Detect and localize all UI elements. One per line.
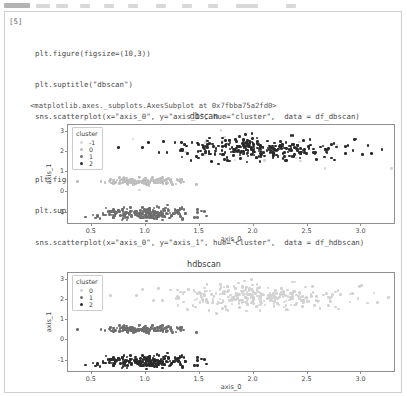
toolbar-icon-paste[interactable] [80,4,90,8]
scatter-point [171,183,174,186]
y-axis-tick-mark [65,339,67,340]
scatter-point [153,360,156,363]
scatter-point [273,305,276,308]
legend-item[interactable]: 2 [76,301,98,308]
scatter-point [215,312,218,315]
scatter-point [294,304,297,307]
scatter-point [196,356,199,359]
scatter-point [110,210,113,213]
scatter-point [139,217,142,220]
x-axis-tick-label: 2.5 [293,375,321,383]
legend-item[interactable]: 0 [76,146,98,153]
toolbar-cell-type-select[interactable] [236,4,258,8]
legend-item[interactable]: 1 [76,294,98,301]
y-axis-tick-mark [65,212,67,213]
scatter-point [237,149,240,152]
scatter-point [142,327,145,330]
scatter-point [266,140,269,143]
scatter-point [291,143,294,146]
legend-item[interactable]: 2 [76,160,98,167]
scatter-point [141,146,144,149]
scatter-point [100,180,103,183]
y-axis-tick-mark [65,360,67,361]
chart-legend[interactable]: cluster012 [72,275,103,311]
scatter-point [196,208,199,211]
scatter-point [279,295,282,298]
scatter-point [131,178,134,181]
scatter-point [295,157,298,160]
x-axis-tick-mark [145,224,146,226]
x-axis-tick-label: 1.5 [185,375,213,383]
x-axis-tick-label: 2.0 [239,375,267,383]
scatter-point [121,182,124,185]
scatter-point [285,308,288,311]
scatter-point [145,368,148,371]
scatter-point [127,331,130,334]
notebook-cell[interactable]: [5] plt.figure(figsize=(10,3)) plt.supti… [4,11,402,393]
x-axis-tick-mark [360,372,361,374]
legend-item[interactable]: -1 [76,139,98,146]
scatter-point [344,145,347,148]
scatter-point [138,324,141,327]
scatter-point [152,299,155,302]
scatter-point [158,206,161,209]
scatter-point [161,219,164,222]
scatter-point [186,308,189,311]
y-axis-tick-label: 3 [51,127,64,135]
legend-title: cluster [76,130,98,138]
scatter-point [357,297,360,300]
toolbar-icon-move-down[interactable] [128,4,138,8]
scatter-point [196,292,199,295]
toolbar-icon-move-up[interactable] [104,4,114,8]
scatter-point [221,141,224,144]
chart-legend[interactable]: cluster-1012 [72,127,103,170]
scatter-point [261,293,264,296]
scatter-point [272,152,275,155]
scatter-point [246,303,249,306]
scatter-point [238,306,241,309]
scatter-point [159,360,162,363]
toolbar-icon-stop[interactable] [182,4,192,8]
scatter-point [325,292,328,295]
scatter-point [84,364,87,367]
scatter-point [255,157,258,160]
scatter-point [299,151,302,154]
toolbar-icon-run[interactable] [156,4,166,8]
scatter-point [174,356,177,359]
scatter-point [76,180,79,183]
legend-item[interactable]: 1 [76,153,98,160]
legend-item-label: 2 [89,160,93,167]
scatter-point [239,157,242,160]
toolbar-icon-command-palette[interactable] [286,4,296,8]
scatter-point [104,329,107,332]
scatter-point [331,293,334,296]
scatter-point [228,299,231,302]
scatter-point [233,299,236,302]
scatter-point [186,152,189,155]
scatter-point [145,220,148,223]
toolbar-icon-cut[interactable] [36,4,50,8]
scatter-point [209,153,212,156]
scatter-point [217,163,220,166]
y-axis-tick-mark [65,279,67,280]
scatter-point [312,151,315,154]
legend-title: cluster [76,278,98,286]
notebook-toolbar-fragment[interactable] [0,0,407,9]
x-axis-tick-mark [307,372,308,374]
toolbar-icon-group[interactable] [4,3,30,8]
scatter-point [256,140,259,143]
scatter-point [166,151,169,154]
legend-item[interactable]: 0 [76,287,98,294]
toolbar-icon-restart[interactable] [208,4,218,8]
scatter-point [285,141,288,144]
scatter-point [144,214,147,217]
scatter-point [390,167,393,170]
scatter-point [163,364,166,367]
toolbar-icon-copy[interactable] [56,4,68,8]
scatter-point [302,139,305,142]
y-axis-tick-mark [65,299,67,300]
scatter-point [132,138,135,141]
scatter-point [260,155,263,158]
scatter-point [104,362,107,365]
y-axis-tick-mark [65,131,67,132]
